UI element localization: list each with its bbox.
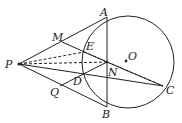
label-q: Q: [50, 86, 59, 99]
label-n: N: [107, 66, 118, 79]
dashed-pn: [19, 62, 107, 64]
point-n: [106, 61, 108, 63]
dashed-pe: [19, 52, 84, 64]
line-qn: [60, 62, 107, 86]
label-b: B: [101, 108, 110, 121]
point-o: [125, 60, 128, 63]
label-p: P: [4, 58, 13, 71]
label-m: M: [51, 31, 64, 44]
label-o: O: [128, 50, 137, 63]
label-e: E: [85, 40, 94, 53]
geometry-diagram: P A B C O N E D M Q: [0, 0, 182, 123]
label-c: C: [166, 84, 175, 97]
label-d: D: [72, 75, 82, 88]
point-p: [17, 62, 20, 65]
label-a: A: [99, 6, 108, 19]
